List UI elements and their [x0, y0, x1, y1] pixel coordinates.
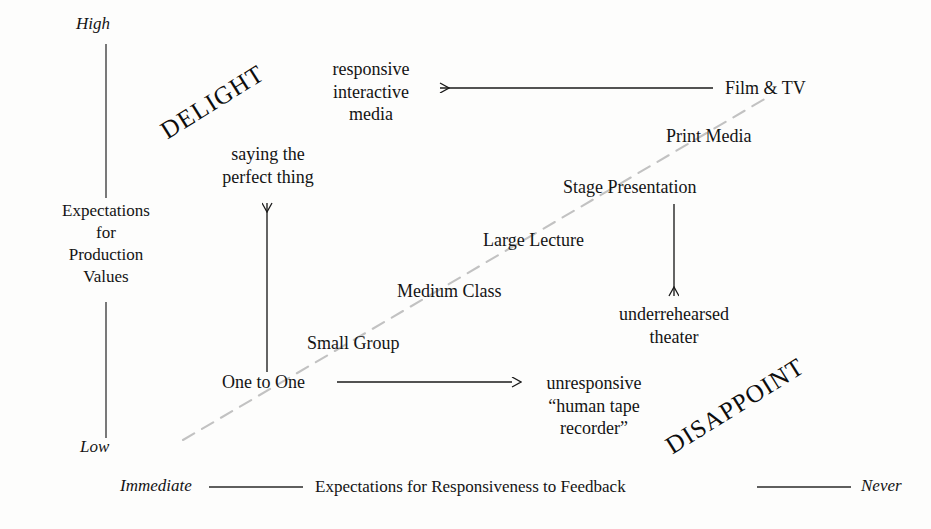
- node-responsive-media-line-2: interactive: [300, 81, 442, 104]
- y-axis-high-label: High: [76, 14, 110, 34]
- zone-label-delight: DELIGHT: [155, 58, 270, 145]
- node-unresponsive-line-1: unresponsive: [524, 372, 664, 395]
- node-underrehearsed-line-2: theater: [603, 326, 745, 349]
- node-unresponsive-human-tape-recorder: unresponsive “human tape recorder”: [524, 372, 664, 440]
- node-large-lecture: Large Lecture: [483, 230, 584, 251]
- x-axis-title: Expectations for Responsiveness to Feedb…: [315, 476, 626, 498]
- node-film-and-tv: Film & TV: [725, 78, 806, 99]
- x-axis-immediate-label: Immediate: [120, 476, 192, 496]
- node-small-group: Small Group: [307, 333, 400, 354]
- node-responsive-media-line-3: media: [300, 103, 442, 126]
- node-one-to-one: One to One: [222, 372, 305, 393]
- node-print-media: Print Media: [666, 126, 752, 147]
- node-medium-class: Medium Class: [397, 281, 502, 302]
- node-underrehearsed-line-1: underrehearsed: [603, 303, 745, 326]
- node-saying-perfect-line-2: perfect thing: [196, 166, 340, 189]
- y-axis-title-line-3: Production: [36, 244, 176, 266]
- x-axis-never-label: Never: [861, 476, 902, 496]
- node-responsive-media-line-1: responsive: [300, 58, 442, 81]
- node-stage-presentation: Stage Presentation: [563, 177, 696, 198]
- node-unresponsive-line-2: “human tape: [524, 395, 664, 418]
- node-responsive-interactive-media: responsive interactive media: [300, 58, 442, 126]
- y-axis-title-line-2: for: [36, 222, 176, 244]
- y-axis-title-line-4: Values: [36, 266, 176, 288]
- expectations-matrix-figure: High Expectations for Production Values …: [0, 0, 931, 529]
- y-axis-title: Expectations for Production Values: [36, 200, 176, 288]
- zone-label-disappoint: DISAPPOINT: [660, 352, 810, 461]
- node-underrehearsed-theater: underrehearsed theater: [603, 303, 745, 348]
- node-saying-perfect-line-1: saying the: [196, 143, 340, 166]
- node-unresponsive-line-3: recorder”: [524, 417, 664, 440]
- y-axis-low-label: Low: [80, 437, 109, 457]
- y-axis-title-line-1: Expectations: [36, 200, 176, 222]
- node-saying-the-perfect-thing: saying the perfect thing: [196, 143, 340, 188]
